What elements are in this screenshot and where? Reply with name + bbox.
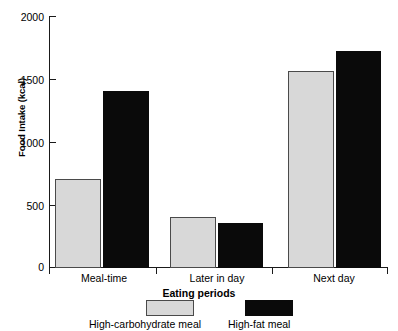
bar-next-day-high-carbohydrate: [288, 71, 334, 268]
x-tick-mark-start: [49, 268, 50, 274]
bar-chart: Food Intake (kcal) 2000 1500 1000 500 0 …: [0, 0, 398, 331]
y-tick-label-1000: 1000: [8, 138, 44, 148]
x-tick-mark-end: [387, 268, 388, 274]
y-tick-label-1500: 1500: [8, 75, 44, 85]
x-tick-mark-2: [272, 268, 273, 274]
y-tick-label-0: 0: [8, 262, 44, 272]
y-tick-label-2000: 2000: [8, 12, 44, 22]
chart-legend: High-carbohydrate meal High-fat meal: [0, 299, 398, 331]
bar-later-in-day-high-fat: [218, 223, 263, 268]
y-tick-label-500: 500: [8, 201, 44, 211]
x-tick-label-next-day: Next day: [291, 272, 377, 284]
bar-mealtime-high-fat: [103, 91, 149, 268]
y-axis-title: Food Intake (kcal): [16, 53, 27, 183]
x-tick-label-later-in-day: Later in day: [174, 272, 260, 284]
bar-later-in-day-high-carbohydrate: [170, 217, 216, 268]
legend-swatch-high-carbohydrate-meal: [146, 300, 194, 316]
legend-swatch-high-fat-meal: [245, 300, 293, 316]
bar-mealtime-high-carbohydrate: [55, 179, 101, 268]
x-tick-mark-1: [156, 268, 157, 274]
x-tick-label-meal-time: Meal-time: [62, 272, 146, 284]
legend-label-high-fat-meal: High-fat meal: [228, 318, 290, 330]
legend-label-high-carbohydrate-meal: High-carbohydrate meal: [89, 318, 201, 330]
y-axis-line: [49, 16, 50, 268]
x-axis-title: Eating periods: [0, 287, 398, 299]
bar-next-day-high-fat: [336, 51, 381, 268]
